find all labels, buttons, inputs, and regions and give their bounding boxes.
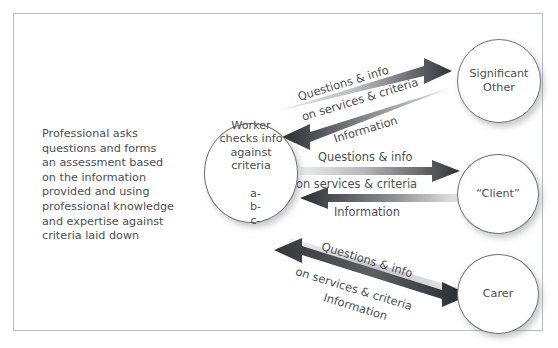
flow-label-outbound-client: Questions & info: [318, 150, 412, 164]
node-carer: Carer: [457, 254, 539, 334]
diagram-canvas: Professional asks questions and forms an…: [0, 0, 558, 348]
flow-group-carer: Questions & info on services & criteria …: [272, 226, 477, 312]
node-worker-label: Worker checks info against criteria: [219, 119, 282, 173]
flow-label-middle-client: on services & criteria: [296, 177, 417, 191]
node-significant-other: Significant Other: [457, 39, 541, 123]
flow-group-client: Questions & info on services & criteria …: [294, 150, 464, 228]
node-significant-other-label: Significant Other: [469, 67, 528, 95]
professional-description-text: Professional asks questions and forms an…: [42, 127, 202, 244]
node-client: “Client”: [457, 154, 539, 234]
diagram-frame: Professional asks questions and forms an…: [13, 13, 543, 331]
node-worker: Worker checks info against criteria a- b…: [204, 123, 298, 223]
node-worker-subitems: a- b- c-: [219, 187, 282, 228]
node-client-label: “Client”: [476, 187, 520, 201]
flow-group-significant-other: Questions & info on services & criteria …: [276, 64, 476, 146]
flow-label-inbound-client: Information: [334, 205, 400, 219]
node-carer-label: Carer: [483, 287, 514, 301]
